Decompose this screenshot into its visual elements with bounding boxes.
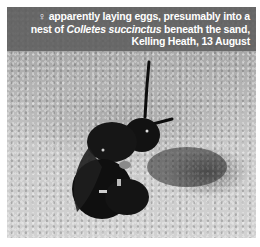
- species-name: Colletes succinctus: [67, 23, 162, 35]
- bee-photograph: ♀ apparently laying eggs, presumably int…: [7, 7, 256, 238]
- caption-line-2-pre: nest of: [31, 23, 67, 35]
- caption-line-2-post: beneath the sand,: [161, 23, 250, 35]
- caption-line-1: apparently laying eggs, presumably into …: [46, 10, 250, 22]
- female-symbol: ♀: [38, 10, 46, 22]
- bee-shadow: [147, 147, 227, 187]
- caption-line-3: Kelling Heath, 13 August: [132, 35, 251, 47]
- photo-caption: ♀ apparently laying eggs, presumably int…: [10, 10, 250, 48]
- caption-band: ♀ apparently laying eggs, presumably int…: [7, 7, 256, 51]
